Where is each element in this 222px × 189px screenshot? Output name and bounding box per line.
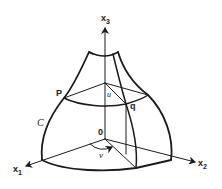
curve-c-label: C (37, 117, 44, 128)
param-u-label: u (107, 90, 111, 99)
point-p-label: P (56, 88, 62, 98)
origin-label: 0 (98, 127, 103, 137)
param-v-label: v (99, 150, 103, 160)
surface-of-revolution-diagram: x3 x1 x2 P q 0 C u v (0, 0, 222, 189)
curve-c-left-meridian (42, 52, 89, 160)
x2-axis (105, 139, 195, 162)
x2-axis-label: x2 (198, 158, 207, 170)
x1-axis-label: x1 (13, 164, 22, 176)
x3-axis-label: x3 (101, 13, 110, 25)
inner-meridian-through-q (113, 54, 136, 168)
base-curve (42, 160, 171, 170)
point-q-label: q (130, 101, 136, 111)
angle-v-arc (90, 144, 112, 149)
x1-axis (26, 139, 105, 166)
